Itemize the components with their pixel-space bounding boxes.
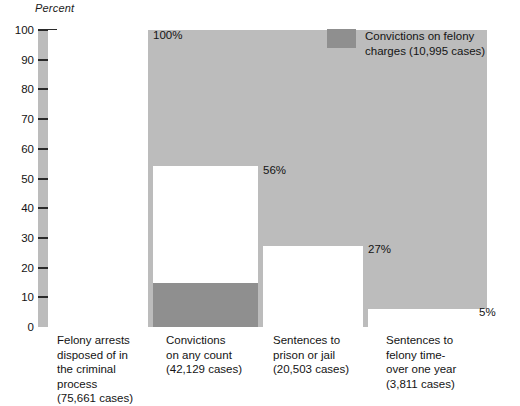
y-axis-tick-label-20: 20 [0, 262, 34, 274]
category-label-convictions-any-count: Convictions on any count (42,129 cases) [166, 333, 264, 377]
y-axis-tick-label-50: 50 [0, 173, 34, 185]
y-axis-tick-label-70: 70 [0, 113, 34, 125]
category-label-sentences-prison-jail: Sentences to prison or jail (20,503 case… [273, 333, 371, 377]
y-axis-tick-label-40: 40 [0, 202, 34, 214]
y-axis-tick-label-90: 90 [0, 54, 34, 66]
value-label-sentences-felony-time: 5% [479, 306, 496, 318]
category-label-felony-arrests: Felony arrests disposed of in the crimin… [57, 333, 149, 406]
y-axis-tick-label-80: 80 [0, 83, 34, 95]
value-label-sentences-prison-jail: 27% [368, 243, 391, 255]
value-label-felony-arrests: 100% [153, 29, 182, 41]
category-label-sentences-felony-time: Sentences to felony time- over one year … [386, 333, 486, 391]
bar-sentences-prison-jail [263, 246, 363, 327]
value-label-convictions-any-count: 56% [263, 164, 286, 176]
funnel-bar-chart: Percent 1009080706050403020100 100% 56% … [0, 0, 520, 406]
bar-felony-arrests [48, 30, 148, 327]
bar-sentences-felony-time [368, 309, 487, 327]
bar-convictions-felony-charges [153, 283, 258, 327]
felony-convictions-swatch [327, 29, 356, 48]
legend-label: Convictions on felony charges (10,995 ca… [365, 29, 485, 58]
y-axis-tick-label-0: 0 [0, 321, 34, 333]
y-axis-tick-label-10: 10 [0, 291, 34, 303]
y-axis-tick-label-100: 100 [0, 24, 34, 36]
y-axis-tick-label-60: 60 [0, 143, 34, 155]
y-axis-tick-label-30: 30 [0, 232, 34, 244]
legend: Convictions on felony charges (10,995 ca… [327, 29, 485, 58]
